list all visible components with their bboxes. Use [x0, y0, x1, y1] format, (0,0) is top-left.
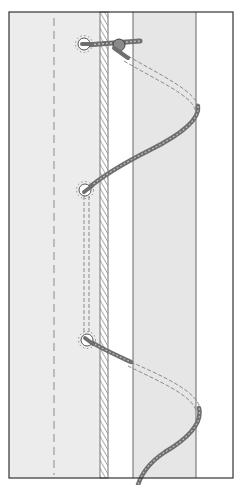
- sail-panel: [9, 12, 108, 478]
- sail-lacing-diagram: [0, 0, 237, 485]
- bolt-rope: [100, 12, 108, 478]
- mast: [133, 12, 196, 478]
